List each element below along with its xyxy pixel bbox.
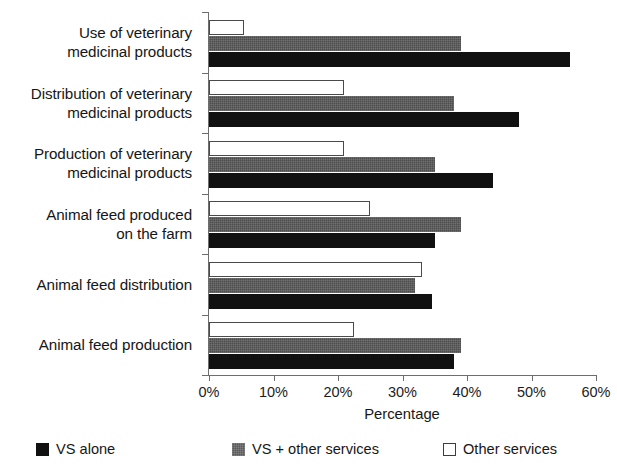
x-axis-tick-label: 30%	[373, 384, 433, 400]
category-label-line: on the farm	[0, 224, 192, 243]
x-axis-tick	[596, 375, 597, 381]
bar-white	[209, 20, 244, 35]
y-axis-tick	[202, 133, 208, 134]
legend-item[interactable]: VS alone	[36, 441, 115, 457]
x-axis-tick	[403, 375, 404, 381]
category-label: Animal feed distribution	[0, 275, 192, 294]
bar-white	[209, 80, 344, 95]
y-axis-tick	[202, 194, 208, 195]
bar-white	[209, 201, 370, 216]
x-axis-tick	[467, 375, 468, 381]
category-label-line: medicinal products	[0, 42, 192, 61]
legend-swatch-gray-icon	[232, 443, 245, 456]
x-axis-tick-label: 50%	[502, 384, 562, 400]
category-label-line: medicinal products	[0, 163, 192, 182]
x-axis-title: Percentage	[208, 406, 596, 422]
y-axis-tick	[202, 375, 208, 376]
bar-gray	[209, 217, 461, 232]
category-label: Production of veterinarymedicinal produc…	[0, 144, 192, 182]
category-label-line: Use of veterinary	[0, 23, 192, 42]
category-label-line: Animal feed production	[0, 335, 192, 354]
category-label-line: Animal feed distribution	[0, 275, 192, 294]
legend-item[interactable]: Other services	[443, 441, 557, 457]
bar-black	[209, 173, 493, 188]
x-axis-tick	[274, 375, 275, 381]
y-axis-tick	[202, 315, 208, 316]
category-label-line: Production of veterinary	[0, 144, 192, 163]
x-axis-tick-label: 20%	[308, 384, 368, 400]
category-label: Use of veterinarymedicinal products	[0, 23, 192, 61]
bar-black	[209, 52, 570, 67]
legend-swatch-white-icon	[443, 443, 456, 456]
category-axis-labels: Use of veterinarymedicinal productsDistr…	[0, 12, 200, 375]
legend-swatch-black-icon	[36, 443, 49, 456]
x-axis-tick	[532, 375, 533, 381]
x-axis-tick-label: 60%	[566, 384, 617, 400]
x-axis-tick-label: 10%	[244, 384, 304, 400]
x-axis-tick-label: 40%	[437, 384, 497, 400]
bar-chart: Use of veterinarymedicinal productsDistr…	[0, 0, 617, 476]
legend-label: Other services	[463, 441, 557, 457]
bar-gray	[209, 96, 454, 111]
bar-white	[209, 262, 422, 277]
bar-black	[209, 354, 454, 369]
x-axis-tick-label: 0%	[179, 384, 239, 400]
chart-legend: VS aloneVS + other servicesOther service…	[0, 437, 617, 467]
bar-white	[209, 322, 354, 337]
bar-white	[209, 141, 344, 156]
bar-gray	[209, 36, 461, 51]
legend-label: VS alone	[56, 441, 115, 457]
category-label: Distribution of veterinarymedicinal prod…	[0, 84, 192, 122]
bar-black	[209, 233, 435, 248]
legend-label: VS + other services	[252, 441, 379, 457]
category-label-line: Animal feed produced	[0, 205, 192, 224]
y-axis-tick	[202, 254, 208, 255]
bar-gray	[209, 157, 435, 172]
bar-black	[209, 112, 519, 127]
legend-item[interactable]: VS + other services	[232, 441, 379, 457]
y-axis-tick	[202, 73, 208, 74]
category-label: Animal feed production	[0, 335, 192, 354]
category-label-line: Distribution of veterinary	[0, 84, 192, 103]
category-label-line: medicinal products	[0, 103, 192, 122]
bar-black	[209, 294, 432, 309]
category-label: Animal feed producedon the farm	[0, 205, 192, 243]
plot-area: 0%10%20%30%40%50%60% Percentage	[208, 12, 595, 375]
x-axis-tick	[338, 375, 339, 381]
y-axis-tick	[202, 12, 208, 13]
bar-gray	[209, 338, 461, 353]
x-axis-tick	[209, 375, 210, 381]
bar-gray	[209, 278, 415, 293]
